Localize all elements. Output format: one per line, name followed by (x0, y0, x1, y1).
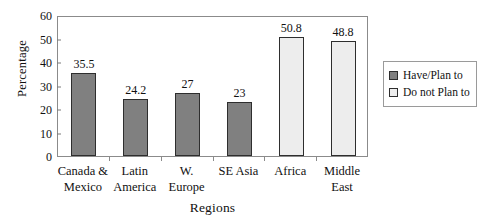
bar-group: 24.2 (110, 17, 162, 156)
y-axis-tick-labels: 0102030405060 (25, 16, 52, 157)
bar-value-label: 35.5 (55, 58, 113, 70)
y-axis-tick-label: 40 (25, 57, 52, 69)
y-axis-tick-label: 0 (25, 151, 52, 163)
x-axis-category-label-line: SE Asia (213, 163, 265, 179)
x-axis-title: Regions (57, 200, 368, 216)
legend-swatch-icon (389, 88, 398, 97)
bar-group: 23 (214, 17, 266, 156)
bar-group: 35.5 (58, 17, 110, 156)
bar (331, 41, 356, 156)
bar-value-label: 23 (210, 87, 268, 99)
x-axis-tick-mark (213, 157, 214, 161)
y-axis-tick-label: 60 (25, 10, 52, 22)
legend-swatch-icon (389, 71, 398, 80)
bar-value-label: 48.8 (314, 26, 372, 38)
bar (279, 37, 304, 156)
y-axis-tick-label: 10 (25, 128, 52, 140)
x-axis-category-label-line: America (109, 179, 161, 195)
bar (227, 102, 252, 156)
legend-item-label: Do not Plan to (403, 87, 470, 99)
x-axis-category-label-line: W. (161, 163, 213, 179)
x-axis-tick-mark (109, 157, 110, 161)
x-axis-category-label: LatinAmerica (109, 163, 161, 195)
bar (123, 99, 148, 156)
x-axis-category-labels: Canada &MexicoLatinAmericaW.EuropeSE Asi… (57, 163, 368, 203)
y-axis-tick-mark (57, 63, 61, 64)
x-axis-category-label: MiddleEast (316, 163, 368, 195)
bar (175, 93, 200, 156)
y-axis-tick-mark (57, 133, 61, 134)
plot-area: 35.524.2272350.848.8 (57, 16, 368, 157)
bar-group: 50.8 (265, 17, 317, 156)
legend: Have/Plan toDo not Plan to (383, 61, 477, 107)
y-axis-tick-label: 30 (25, 81, 52, 93)
x-axis-tick-mark (316, 157, 317, 161)
y-axis-tick-label: 20 (25, 104, 52, 116)
bar-value-label: 24.2 (107, 84, 165, 96)
y-axis-tick-mark (57, 86, 61, 87)
y-axis-tick-mark (57, 39, 61, 40)
y-axis-tick-label: 50 (25, 34, 52, 46)
bars-container: 35.524.2272350.848.8 (58, 17, 367, 156)
x-axis-category-label: SE Asia (213, 163, 265, 179)
x-axis-tick-mark (264, 157, 265, 161)
x-axis-category-label-line: Middle (316, 163, 368, 179)
bar-value-label: 27 (159, 78, 217, 90)
x-axis-category-label: W.Europe (161, 163, 213, 195)
bar-value-label: 50.8 (262, 22, 320, 34)
bar-group: 48.8 (317, 17, 369, 156)
legend-item: Do not Plan to (389, 84, 470, 101)
x-axis-category-label: Africa (264, 163, 316, 179)
x-axis-category-label-line: Africa (264, 163, 316, 179)
legend-item: Have/Plan to (389, 67, 470, 84)
x-axis-tick-mark (161, 157, 162, 161)
legend-item-label: Have/Plan to (403, 70, 463, 82)
x-axis-category-label-line: Mexico (57, 179, 109, 195)
y-axis-tick-mark (57, 110, 61, 111)
bar-group: 27 (162, 17, 214, 156)
x-axis-category-label-line: East (316, 179, 368, 195)
x-axis-category-label-line: Latin (109, 163, 161, 179)
x-axis-category-label-line: Europe (161, 179, 213, 195)
x-axis-category-label-line: Canada & (57, 163, 109, 179)
bar (71, 73, 96, 156)
x-axis-category-label: Canada &Mexico (57, 163, 109, 195)
